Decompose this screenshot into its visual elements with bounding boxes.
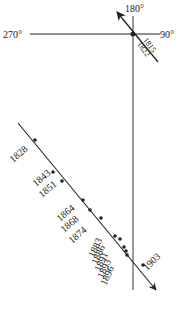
label-90: 90° (160, 29, 174, 40)
label-270: 270° (3, 29, 22, 40)
year-label: 1903 (141, 250, 163, 272)
label-180: 180° (125, 3, 144, 14)
year-label: 1828 (7, 143, 29, 164)
center-dot (131, 32, 136, 37)
lower-arrow (18, 123, 156, 290)
declination-diagram: 180° 270° 90° 1815 1822 1828 1843 1851 1… (0, 0, 181, 312)
upper-arrow (117, 12, 158, 62)
